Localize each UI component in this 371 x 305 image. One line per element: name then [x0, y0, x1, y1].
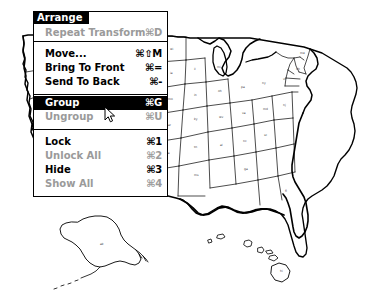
menu-item-shortcut: ⌘D [145, 26, 162, 40]
svg-text:ga: ga [244, 167, 248, 171]
menu-item-shortcut: ⌘= [145, 61, 162, 75]
menu-item-send-to-back[interactable]: Send To Back ⌘- [34, 75, 167, 89]
svg-text:wv: wv [219, 115, 223, 119]
menu-item-label: Repeat Transform [45, 26, 145, 40]
menu-item-label: Ungroup [45, 110, 93, 124]
menu-item-show-all[interactable]: Show All ⌘4 [34, 177, 167, 191]
menu-item-shortcut: ⌘1 [146, 135, 162, 149]
arrange-dropdown-menu[interactable]: Repeat Transform ⌘D Move... ⌘⇧M Bring To… [33, 11, 168, 197]
hawaii-niihau [208, 239, 212, 243]
hawaii-small-isle [217, 234, 225, 239]
menu-item-shortcut: ⌘3 [146, 163, 162, 177]
menu-item-move[interactable]: Move... ⌘⇧M [34, 47, 167, 61]
state-borders-northeast [276, 49, 310, 92]
menu-item-shortcut: ⌘4 [146, 177, 162, 191]
menu-group-transform: Repeat Transform ⌘D [34, 25, 167, 41]
menu-group-grouping: Group ⌘G Ungroup ⌘U [34, 95, 167, 125]
hawaii-kauai [244, 240, 252, 247]
state-borders-midwest [178, 58, 295, 205]
hawaii-maui [269, 255, 278, 261]
lake-erie-ontario [246, 52, 276, 62]
menu-item-label: Group [45, 96, 79, 110]
menu-item-shortcut: ⌘⇧M [135, 47, 162, 61]
svg-text:il: il [194, 67, 196, 71]
aleutian-islands [54, 267, 100, 289]
menu-item-label: Bring To Front [45, 61, 124, 75]
svg-text:ms: ms [194, 173, 199, 177]
svg-text:va: va [242, 111, 246, 115]
menu-item-label: Show All [45, 177, 94, 191]
menu-item-shortcut: ⌘G [145, 96, 162, 110]
svg-text:al: al [220, 143, 223, 147]
menu-item-label: Lock [45, 135, 71, 149]
svg-text:me: me [300, 51, 305, 55]
svg-text:nc: nc [243, 139, 247, 143]
menu-item-hide[interactable]: Hide ⌘3 [34, 163, 167, 177]
menu-item-group[interactable]: Group ⌘G [34, 96, 167, 110]
svg-text:nh: nh [296, 67, 300, 71]
menu-item-shortcut: ⌘U [145, 110, 162, 124]
menu-title-arrange[interactable]: Arrange [33, 11, 89, 24]
atlantic-florida-coast [283, 113, 308, 238]
menu-item-unlock-all[interactable]: Unlock All ⌘2 [34, 149, 167, 163]
menu-item-label: Unlock All [45, 149, 101, 163]
svg-text:ny: ny [262, 81, 266, 85]
menu-item-bring-to-front[interactable]: Bring To Front ⌘= [34, 61, 167, 75]
menu-group-locking: Lock ⌘1 Unlock All ⌘2 Hide ⌘3 Show All ⌘… [34, 134, 167, 192]
svg-text:ar: ar [168, 123, 172, 127]
svg-text:nj: nj [283, 103, 286, 107]
alaska-panhandle [136, 250, 148, 262]
menu-item-label: Hide [45, 163, 71, 177]
menu-item-shortcut: ⌘- [149, 75, 162, 89]
svg-text:in: in [194, 93, 197, 97]
svg-text:md: md [263, 107, 268, 111]
northeast-coast [303, 49, 318, 113]
svg-text:ak: ak [100, 242, 104, 246]
svg-text:hi: hi [280, 269, 283, 273]
menu-item-lock[interactable]: Lock ⌘1 [34, 135, 167, 149]
svg-text:ky: ky [194, 117, 198, 121]
svg-text:wi: wi [170, 47, 173, 51]
svg-text:mi: mi [217, 65, 221, 69]
svg-text:oh: oh [218, 89, 222, 93]
hawaii-oahu [258, 247, 264, 253]
menu-item-repeat-transform[interactable]: Repeat Transform ⌘D [34, 26, 167, 40]
menu-spacer-5 [34, 192, 167, 196]
svg-text:ia: ia [170, 71, 173, 75]
hawaii-molokai [266, 250, 273, 254]
menu-item-label: Send To Back [45, 75, 120, 89]
menu-item-label: Move... [45, 47, 87, 61]
menu-item-shortcut: ⌘2 [146, 149, 162, 163]
svg-text:mo: mo [168, 97, 173, 101]
svg-text:pa: pa [241, 85, 245, 89]
menu-group-ordering: Move... ⌘⇧M Bring To Front ⌘= Send To Ba… [34, 46, 167, 90]
svg-text:sc: sc [264, 133, 268, 137]
svg-text:fl: fl [285, 189, 287, 193]
svg-text:tn: tn [194, 145, 197, 149]
menu-item-ungroup[interactable]: Ungroup ⌘U [34, 110, 167, 124]
menu-item-list: Repeat Transform ⌘D Move... ⌘⇧M Bring To… [34, 12, 167, 196]
great-lakes-border [198, 38, 260, 76]
